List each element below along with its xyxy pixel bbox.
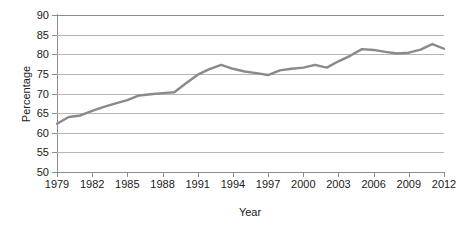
x-tick-2000 xyxy=(303,172,304,177)
x-tick-2003 xyxy=(338,172,339,177)
x-tick-1997 xyxy=(268,172,269,177)
y-tick-label-60: 60 xyxy=(37,127,49,138)
y-tick-label-80: 80 xyxy=(37,49,49,60)
x-tick-label-2000: 2000 xyxy=(291,179,315,190)
x-tick-2012 xyxy=(444,172,445,177)
x-tick-label-1997: 1997 xyxy=(256,179,280,190)
x-tick-label-1982: 1982 xyxy=(80,179,104,190)
x-tick-1985 xyxy=(127,172,128,177)
y-tick-label-85: 85 xyxy=(37,29,49,40)
x-tick-label-1994: 1994 xyxy=(221,179,245,190)
y-tick-label-70: 70 xyxy=(37,88,49,99)
y-tick-label-65: 65 xyxy=(37,108,49,119)
y-tick-label-50: 50 xyxy=(37,167,49,178)
y-tick-label-90: 90 xyxy=(37,10,49,21)
y-axis-title: Percentage xyxy=(21,66,32,122)
x-tick-label-1979: 1979 xyxy=(45,179,69,190)
x-tick-label-2006: 2006 xyxy=(361,179,385,190)
x-tick-1988 xyxy=(163,172,164,177)
x-tick-label-1991: 1991 xyxy=(185,179,209,190)
x-tick-1994 xyxy=(233,172,234,177)
x-tick-1982 xyxy=(92,172,93,177)
x-tick-label-2009: 2009 xyxy=(397,179,421,190)
x-tick-2006 xyxy=(374,172,375,177)
data-series-line xyxy=(57,15,444,172)
x-tick-1991 xyxy=(198,172,199,177)
y-tick-label-55: 55 xyxy=(37,147,49,158)
line-chart: Percentage Year 505560657075808590 19791… xyxy=(0,0,474,233)
x-tick-label-2003: 2003 xyxy=(326,179,350,190)
x-tick-label-2012: 2012 xyxy=(432,179,456,190)
x-tick-label-1985: 1985 xyxy=(115,179,139,190)
x-tick-1979 xyxy=(57,172,58,177)
plot-area: 505560657075808590 197919821985198819911… xyxy=(57,15,444,172)
series-polyline xyxy=(57,44,444,124)
x-tick-label-1988: 1988 xyxy=(150,179,174,190)
x-axis-title: Year xyxy=(239,207,261,218)
gridline-50 xyxy=(57,172,444,173)
y-tick-label-75: 75 xyxy=(37,68,49,79)
x-tick-2009 xyxy=(409,172,410,177)
